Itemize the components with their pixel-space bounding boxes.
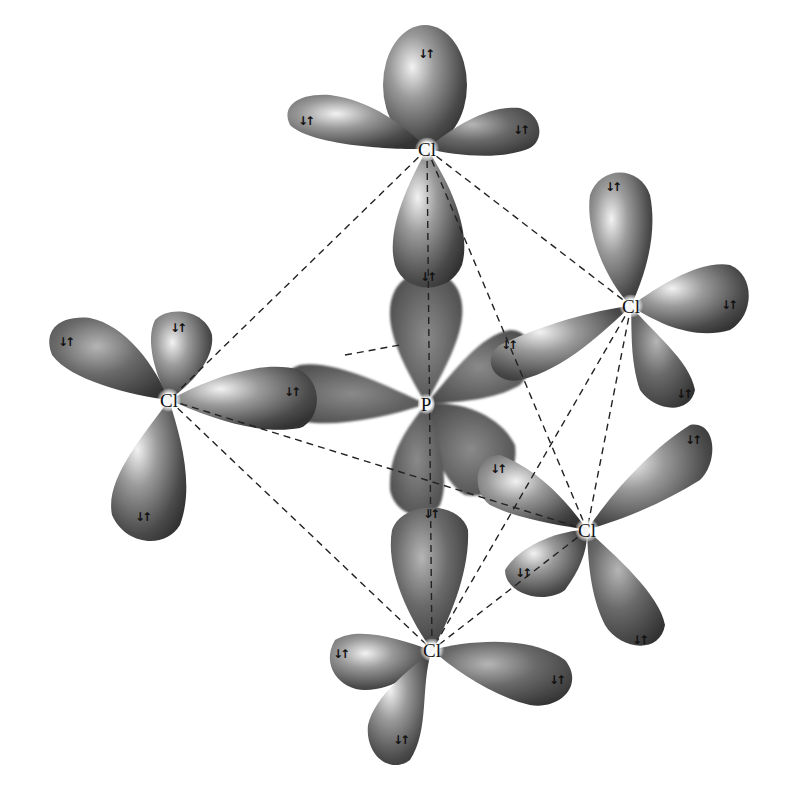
cl-right-lobes (491, 173, 749, 408)
spin-pair-arrows-icon: ↓↑ (605, 181, 619, 193)
spin-pair-arrows-icon: ↓↑ (513, 124, 527, 136)
spin-pair-arrows-icon: ↓↑ (284, 386, 298, 398)
spin-pair-arrows-icon: ↓↑ (515, 567, 529, 579)
dashed-bond-line (345, 345, 400, 355)
atom-label-cl-bottom: Cl (420, 639, 444, 662)
atom-label-cl-right: Cl (619, 295, 643, 318)
spin-pair-arrows-icon: ↓↑ (333, 648, 347, 660)
spin-pair-arrows-icon: ↓↑ (549, 674, 563, 686)
atom-label-cl-left: Cl (157, 389, 181, 412)
spin-pair-arrows-icon: ↓↑ (632, 634, 646, 646)
spin-pair-arrows-icon: ↓↑ (490, 463, 504, 475)
atom-label-cl-lower-right: Cl (575, 519, 599, 542)
atom-label-cl-top: Cl (415, 138, 439, 161)
spin-pair-arrows-icon: ↓↑ (58, 336, 72, 348)
spin-pair-arrows-icon: ↓↑ (420, 271, 434, 283)
orbital-lobes-canvas (0, 0, 800, 804)
pcl5-orbital-diagram: PClClClClCl ↓↑↓↑↓↑↓↑↓↑↓↑↓↑↓↑↓↑↓↑↓↑↓↑↓↑↓↑… (0, 0, 800, 804)
spin-pair-arrows-icon: ↓↑ (135, 511, 149, 523)
spin-pair-arrows-icon: ↓↑ (170, 322, 184, 334)
spin-pair-arrows-icon: ↓↑ (676, 388, 690, 400)
spin-pair-arrows-icon: ↓↑ (423, 508, 437, 520)
cl-top-lobes (287, 25, 539, 288)
spin-pair-arrows-icon: ↓↑ (393, 734, 407, 746)
spin-pair-arrows-icon: ↓↑ (721, 299, 735, 311)
atom-label-p: P (418, 393, 435, 416)
spin-pair-arrows-icon: ↓↑ (418, 48, 432, 60)
spin-pair-arrows-icon: ↓↑ (685, 434, 699, 446)
dashed-bond-line (169, 400, 432, 650)
dashed-bond-line (169, 149, 427, 400)
spin-pair-arrows-icon: ↓↑ (298, 115, 312, 127)
spin-pair-arrows-icon: ↓↑ (501, 339, 515, 351)
cl-left-lobes (49, 312, 317, 541)
dashed-bond-line (169, 400, 587, 530)
